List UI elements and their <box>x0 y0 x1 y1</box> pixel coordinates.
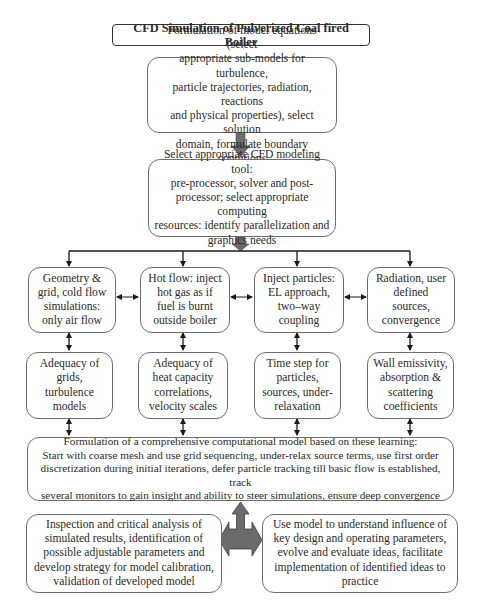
tool-selection-box: Select appropriate CFD modeling tool: pr… <box>148 159 336 237</box>
application-box: Use model to understand influence of key… <box>262 514 458 593</box>
stage-text: Inject particles: EL approach, two–way c… <box>263 272 335 329</box>
check-box-time-step: Time step for particles, sources, under-… <box>254 352 341 419</box>
check-text: Time step for particles, sources, under-… <box>262 357 333 414</box>
stage-box-inject-particles: Inject particles: EL approach, two–way c… <box>254 267 344 333</box>
check-text: Adequacy of heat capacity correlations, … <box>149 357 217 414</box>
application-text: Use model to understand influence of key… <box>273 518 447 589</box>
stage-text: Hot flow: inject hot gas as if fuel is b… <box>148 272 221 329</box>
calibration-text: Inspection and critical analysis of simu… <box>34 518 214 589</box>
check-text: Adequacy of grids, turbulence models <box>40 357 100 414</box>
check-box-heat-capacity: Adequacy of heat capacity correlations, … <box>138 352 228 419</box>
three-way-block-arrow <box>219 502 262 556</box>
comprehensive-model-text: Formulation of a comprehensive computati… <box>32 435 449 502</box>
formulation-box: Formulation of model equations (select a… <box>147 57 337 133</box>
stage-box-hot-flow: Hot flow: inject hot gas as if fuel is b… <box>140 267 230 333</box>
stage-box-radiation: Radiation, user defined sources, converg… <box>367 267 455 333</box>
formulation-text: Formulation of model equations (select a… <box>152 24 332 166</box>
check-text: Wall emissivity, absorption & scattering… <box>373 357 447 414</box>
tool-selection-text: Select appropriate CFD modeling tool: pr… <box>153 148 331 247</box>
comprehensive-model-box: Formulation of a comprehensive computati… <box>27 437 454 501</box>
stage-text: Geometry & grid, cold flow simulations: … <box>38 272 107 329</box>
check-box-wall-emissivity: Wall emissivity, absorption & scattering… <box>367 352 454 419</box>
check-box-grids: Adequacy of grids, turbulence models <box>26 352 113 419</box>
stage-box-geometry: Geometry & grid, cold flow simulations: … <box>28 267 116 333</box>
calibration-box: Inspection and critical analysis of simu… <box>26 514 222 593</box>
stage-text: Radiation, user defined sources, converg… <box>376 272 446 329</box>
